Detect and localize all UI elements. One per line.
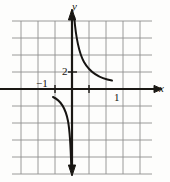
axes [0,9,162,176]
y-axis-label: y [72,1,77,12]
x-axis-label: x [159,83,164,94]
tick-label-negative-one: −1 [36,78,48,89]
figure-container: y x −1 2 1 [0,0,170,182]
graph-canvas [0,0,170,182]
function-curve [53,17,112,168]
tick-label-two: 2 [62,66,68,77]
tick-label-one: 1 [114,92,120,103]
grid-lines [12,21,152,174]
